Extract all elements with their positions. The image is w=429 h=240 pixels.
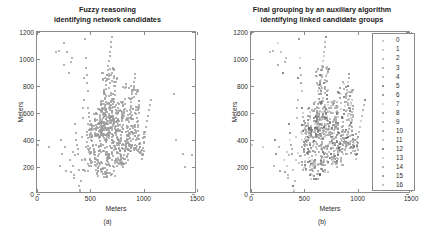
legend-marker-icon bbox=[382, 103, 384, 105]
scatter-point bbox=[113, 149, 115, 151]
legend-marker-icon bbox=[382, 175, 384, 177]
scatter-point bbox=[337, 122, 339, 124]
scatter-point bbox=[124, 98, 126, 100]
scatter-point bbox=[37, 144, 39, 146]
scatter-point bbox=[298, 38, 300, 40]
scatter-point bbox=[191, 154, 193, 156]
legend-item-7[interactable]: 7 bbox=[373, 99, 414, 108]
scatter-point bbox=[321, 143, 323, 145]
scatter-point bbox=[109, 117, 111, 119]
scatter-point bbox=[322, 161, 324, 163]
legend-item-15[interactable]: 15 bbox=[373, 172, 414, 181]
scatter-point bbox=[73, 177, 75, 179]
scatter-point bbox=[318, 87, 320, 89]
legend-item-1[interactable]: 1 bbox=[373, 45, 414, 54]
scatter-point bbox=[324, 136, 326, 138]
scatter-point bbox=[336, 101, 338, 103]
scatter-point bbox=[125, 131, 127, 133]
scatter-point bbox=[122, 157, 124, 159]
scatter-point bbox=[80, 180, 82, 182]
scatter-point bbox=[272, 50, 274, 52]
scatter-point bbox=[319, 127, 321, 129]
scatter-point bbox=[148, 109, 150, 111]
scatter-point bbox=[336, 147, 338, 149]
figure: Fuzzy reasoning identifying network cand… bbox=[0, 0, 429, 240]
scatter-point bbox=[116, 77, 118, 79]
legend-item-14[interactable]: 14 bbox=[373, 163, 414, 172]
scatter-point bbox=[354, 139, 356, 141]
legend-item-10[interactable]: 10 bbox=[373, 126, 414, 135]
scatter-point bbox=[348, 128, 350, 130]
legend-item-16[interactable]: 16 bbox=[373, 181, 414, 190]
scatter-point bbox=[284, 61, 286, 63]
panel-b-yaxis-label: Meters bbox=[231, 102, 238, 123]
scatter-point bbox=[139, 146, 141, 148]
scatter-point bbox=[108, 130, 110, 132]
scatter-point bbox=[134, 129, 136, 131]
legend-item-11[interactable]: 11 bbox=[373, 136, 414, 145]
scatter-point bbox=[336, 140, 338, 142]
scatter-point bbox=[110, 116, 112, 118]
legend-item-12[interactable]: 12 bbox=[373, 145, 414, 154]
scatter-point bbox=[350, 114, 352, 116]
scatter-point bbox=[109, 68, 111, 70]
scatter-point bbox=[91, 140, 93, 142]
scatter-point bbox=[182, 153, 184, 155]
legend-item-13[interactable]: 13 bbox=[373, 154, 414, 163]
scatter-point bbox=[125, 162, 127, 164]
scatter-point bbox=[48, 146, 50, 148]
scatter-point bbox=[111, 147, 113, 149]
scatter-point bbox=[121, 147, 123, 149]
legend-item-2[interactable]: 2 bbox=[373, 54, 414, 63]
scatter-point bbox=[324, 164, 326, 166]
scatter-point bbox=[317, 129, 319, 131]
scatter-point bbox=[296, 107, 298, 109]
scatter-point bbox=[354, 150, 356, 152]
legend-item-6[interactable]: 6 bbox=[373, 90, 414, 99]
scatter-point bbox=[334, 143, 336, 145]
panel-b-caption: (b) bbox=[318, 218, 326, 225]
xtick-mark bbox=[304, 32, 305, 35]
scatter-point bbox=[84, 158, 86, 160]
scatter-point bbox=[113, 101, 115, 103]
legend-item-8[interactable]: 8 bbox=[373, 108, 414, 117]
legend-marker-icon bbox=[382, 139, 384, 141]
scatter-point bbox=[110, 122, 112, 124]
scatter-point bbox=[110, 46, 112, 48]
scatter-point bbox=[345, 101, 347, 103]
scatter-point bbox=[324, 92, 326, 94]
legend-marker-icon bbox=[382, 85, 384, 87]
scatter-point bbox=[319, 74, 321, 76]
scatter-point bbox=[117, 119, 119, 121]
legend-item-3[interactable]: 3 bbox=[373, 63, 414, 72]
scatter-point bbox=[106, 116, 108, 118]
scatter-point bbox=[142, 137, 144, 139]
scatter-point bbox=[77, 153, 79, 155]
ytick-label: 800 bbox=[23, 83, 34, 90]
scatter-point bbox=[85, 146, 87, 148]
legend-item-4[interactable]: 4 bbox=[373, 72, 414, 81]
scatter-point bbox=[349, 141, 351, 143]
scatter-point bbox=[128, 87, 130, 89]
scatter-point bbox=[111, 139, 113, 141]
scatter-point bbox=[300, 74, 302, 76]
scatter-point bbox=[137, 124, 139, 126]
scatter-point bbox=[324, 86, 326, 88]
panel-a-yaxis-label: Meters bbox=[17, 102, 24, 123]
panel-b-title-line1: Final grouping by an auxiliary algorithm bbox=[215, 5, 429, 15]
scatter-point bbox=[277, 42, 279, 44]
scatter-point bbox=[329, 118, 331, 120]
scatter-point bbox=[294, 180, 296, 182]
scatter-point bbox=[85, 67, 87, 69]
scatter-point bbox=[136, 91, 138, 93]
scatter-point bbox=[99, 140, 101, 142]
scatter-point bbox=[101, 103, 103, 105]
legend-item-5[interactable]: 5 bbox=[373, 81, 414, 90]
scatter-point bbox=[336, 134, 338, 136]
legend-item-0[interactable]: 0 bbox=[373, 36, 414, 45]
scatter-point bbox=[320, 91, 322, 93]
scatter-point bbox=[106, 120, 108, 122]
scatter-point bbox=[121, 116, 123, 118]
scatter-point bbox=[324, 88, 326, 90]
legend-item-9[interactable]: 9 bbox=[373, 117, 414, 126]
